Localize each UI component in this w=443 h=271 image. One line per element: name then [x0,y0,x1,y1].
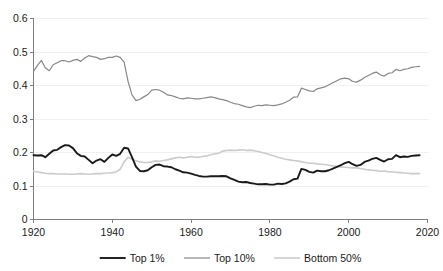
x-tick-label: 2020 [416,226,440,238]
legend-label-bottom-50: Bottom 50% [304,252,361,264]
x-tick-label: 2000 [337,226,361,238]
y-tick-label: 0.1 [13,180,28,192]
series-line-top-10 [34,56,420,108]
x-tick-label: 1920 [22,226,46,238]
legend-label-top-10: Top 10% [214,252,255,264]
x-tick-label: 1960 [179,226,203,238]
chart-legend: Top 1%Top 10%Bottom 50% [100,252,362,264]
y-axis-tick-labels: 00.10.20.30.40.50.6 [13,12,28,225]
x-tick-label: 1940 [101,226,125,238]
chart-container: 00.10.20.30.40.50.6 19201940196019802000… [0,0,443,271]
tick-marks [30,19,428,224]
y-tick-label: 0.4 [13,79,28,91]
y-tick-label: 0.2 [13,146,28,158]
x-tick-label: 1980 [258,226,282,238]
data-series [34,56,420,185]
y-tick-label: 0 [22,213,28,225]
y-tick-label: 0.3 [13,113,28,125]
x-axis-tick-labels: 192019401960198020002020 [22,226,440,238]
line-chart: 00.10.20.30.40.50.6 19201940196019802000… [0,0,443,271]
y-tick-label: 0.5 [13,46,28,58]
y-tick-label: 0.6 [13,12,28,24]
legend-label-top-1: Top 1% [130,252,165,264]
